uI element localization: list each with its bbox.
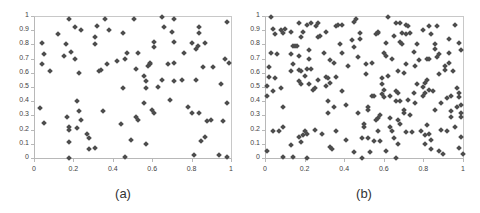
y-tick-label: 0.6 xyxy=(240,68,260,75)
y-tick-label: 0 xyxy=(240,153,260,160)
y-tick-label: 0.2 xyxy=(9,125,29,132)
y-tick-mark xyxy=(31,16,34,17)
y-tick-label: 0.9 xyxy=(9,25,29,32)
y-tick-label: 0.4 xyxy=(240,96,260,103)
y-tick-label: 0.1 xyxy=(9,139,29,146)
caption-b: (b) xyxy=(344,186,384,201)
x-tick-mark xyxy=(34,159,35,162)
y-tick-label: 0.8 xyxy=(240,39,260,46)
y-tick-mark xyxy=(31,144,34,145)
x-tick-mark xyxy=(463,159,464,162)
y-tick-label: 0.7 xyxy=(240,54,260,61)
y-tick-mark xyxy=(31,87,34,88)
y-tick-label: 0.5 xyxy=(240,82,260,89)
y-tick-mark xyxy=(262,30,265,31)
y-tick-mark xyxy=(31,130,34,131)
x-tick-mark xyxy=(113,159,114,162)
y-tick-label: 0.2 xyxy=(240,125,260,132)
y-tick-label: 0.5 xyxy=(9,82,29,89)
x-tick-label: 0.8 xyxy=(413,165,433,172)
y-tick-label: 0 xyxy=(9,153,29,160)
y-tick-mark xyxy=(31,73,34,74)
x-tick-label: 0.8 xyxy=(182,165,202,172)
y-tick-mark xyxy=(31,115,34,116)
y-tick-mark xyxy=(31,101,34,102)
x-tick-label: 0.4 xyxy=(334,165,354,172)
x-tick-mark xyxy=(384,159,385,162)
y-tick-label: 0.4 xyxy=(9,96,29,103)
y-tick-mark xyxy=(262,130,265,131)
y-tick-label: 0.7 xyxy=(9,54,29,61)
y-tick-label: 0.3 xyxy=(240,110,260,117)
x-tick-mark xyxy=(344,159,345,162)
y-tick-mark xyxy=(262,144,265,145)
x-tick-label: 0.2 xyxy=(63,165,83,172)
chart-b: 00.10.20.30.40.50.60.70.80.91 00.20.40.6… xyxy=(231,0,471,213)
y-tick-mark xyxy=(31,59,34,60)
x-tick-label: 0 xyxy=(255,165,275,172)
data-point xyxy=(393,155,399,161)
y-tick-label: 0.1 xyxy=(240,139,260,146)
x-tick-label: 1 xyxy=(453,165,473,172)
x-tick-label: 0.2 xyxy=(295,165,315,172)
x-tick-mark xyxy=(73,159,74,162)
y-tick-mark xyxy=(262,16,265,17)
x-tick-mark xyxy=(192,159,193,162)
x-tick-label: 0 xyxy=(24,165,44,172)
y-tick-mark xyxy=(262,101,265,102)
y-tick-mark xyxy=(262,115,265,116)
y-tick-label: 1 xyxy=(240,11,260,18)
y-tick-label: 0.3 xyxy=(9,110,29,117)
chart-a: 00.10.20.30.40.50.60.70.80.91 00.20.40.6… xyxy=(0,0,240,213)
y-tick-mark xyxy=(262,44,265,45)
y-tick-mark xyxy=(262,59,265,60)
y-tick-label: 1 xyxy=(9,11,29,18)
y-tick-mark xyxy=(31,30,34,31)
x-tick-label: 0.6 xyxy=(374,165,394,172)
x-tick-label: 0.6 xyxy=(142,165,162,172)
y-tick-label: 0.6 xyxy=(9,68,29,75)
caption-a: (a) xyxy=(103,186,143,201)
y-tick-mark xyxy=(262,73,265,74)
data-point xyxy=(460,151,466,157)
y-tick-mark xyxy=(31,44,34,45)
x-tick-mark xyxy=(152,159,153,162)
y-tick-label: 0.8 xyxy=(9,39,29,46)
x-tick-mark xyxy=(265,159,266,162)
x-tick-mark xyxy=(423,159,424,162)
x-tick-label: 0.4 xyxy=(103,165,123,172)
y-tick-label: 0.9 xyxy=(240,25,260,32)
